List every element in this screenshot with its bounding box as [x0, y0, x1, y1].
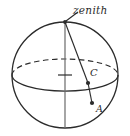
zenith-label: zenith [73, 5, 108, 16]
zenith-point-marker [63, 20, 67, 24]
celestial-sphere-figure: zenith C A [0, 0, 130, 136]
zenith-to-c-line [65, 22, 88, 83]
c-to-a-line [88, 83, 92, 103]
sphere-diagram-svg [0, 0, 130, 136]
center-point-label: C [90, 68, 98, 78]
point-a-label: A [96, 104, 103, 114]
point-c-marker [86, 81, 90, 85]
point-a-marker [90, 101, 94, 105]
